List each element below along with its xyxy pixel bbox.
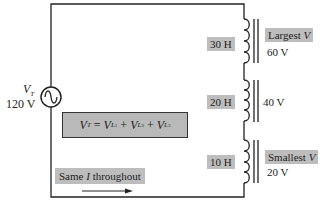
eq-term-3-index: 3: [168, 123, 171, 128]
inductor-2-coil-icon: [244, 80, 258, 122]
inductor-3-coil-icon: [244, 140, 258, 183]
smallest-voltage-note: Smallest V: [265, 150, 318, 164]
eq-plus-2: +: [144, 118, 157, 133]
eq-lhs-var: V: [80, 118, 87, 133]
eq-term-1-var: V: [104, 118, 111, 133]
current-note-suffix: throughout: [90, 170, 141, 182]
ac-source-icon: [41, 87, 61, 107]
eq-term-3-var: V: [157, 118, 164, 133]
inductor-1-label: 30 H: [207, 37, 235, 51]
same-current-note: Same I throughout: [55, 168, 145, 184]
inductor-1-voltage: 60 V: [267, 45, 289, 59]
inductor-3-voltage: 20 V: [267, 165, 289, 179]
smallest-note-var: V: [309, 151, 316, 163]
current-direction-arrow-icon: [82, 189, 133, 194]
inductor-1-coil-icon: [244, 19, 258, 63]
largest-note-var: V: [304, 29, 311, 41]
source-voltage-value: 120 V: [6, 97, 35, 111]
eq-plus-1: +: [117, 118, 130, 133]
inductor-2-label: 20 H: [207, 95, 235, 109]
eq-equals: =: [91, 118, 104, 133]
largest-voltage-note: Largest V: [265, 28, 313, 42]
inductor-2-voltage: 40 V: [263, 95, 285, 109]
smallest-note-text: Smallest: [268, 151, 309, 163]
current-note-prefix: Same: [59, 170, 86, 182]
inductor-3-label: 10 H: [207, 155, 235, 169]
voltage-sum-equation: VT = VL1 + VL2 + VL3: [62, 112, 188, 138]
largest-note-text: Largest: [268, 29, 304, 41]
